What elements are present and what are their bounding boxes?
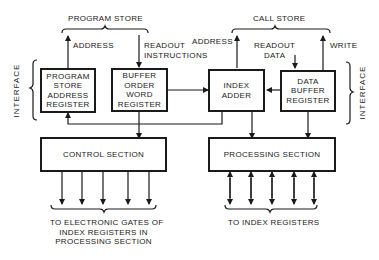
diagram-canvas: PROGRAM STORE CALL STORE ADDRESS READOUT… (0, 0, 379, 260)
call-store-label: CALL STORE (253, 14, 305, 24)
control-output-label: TO ELECTRONIC GATES OF INDEX REGISTERS I… (50, 218, 157, 247)
readout-data-label: READOUT DATA (254, 41, 295, 60)
address-label-right: ADDRESS (192, 37, 233, 47)
program-store-address-register-block: PROGRAM STORE ADDRESS REGISTER (40, 68, 96, 113)
address-label-left: ADDRESS (73, 41, 114, 51)
index-adder-block: INDEX ADDER (208, 69, 265, 112)
buffer-order-word-register-block: BUFFER ORDER WORD REGISTER (111, 68, 168, 112)
processing-section-block: PROCESSING SECTION (208, 137, 336, 172)
interface-label-right: INTERFACE (358, 66, 367, 120)
control-section-block: CONTROL SECTION (40, 137, 167, 172)
program-store-label: PROGRAM STORE (68, 14, 143, 24)
interface-label-left: INTERFACE (12, 64, 21, 118)
data-buffer-register-block: DATA BUFFER REGISTER (280, 70, 336, 112)
processing-output-label: TO INDEX REGISTERS (228, 218, 318, 228)
write-label: WRITE (330, 41, 357, 51)
